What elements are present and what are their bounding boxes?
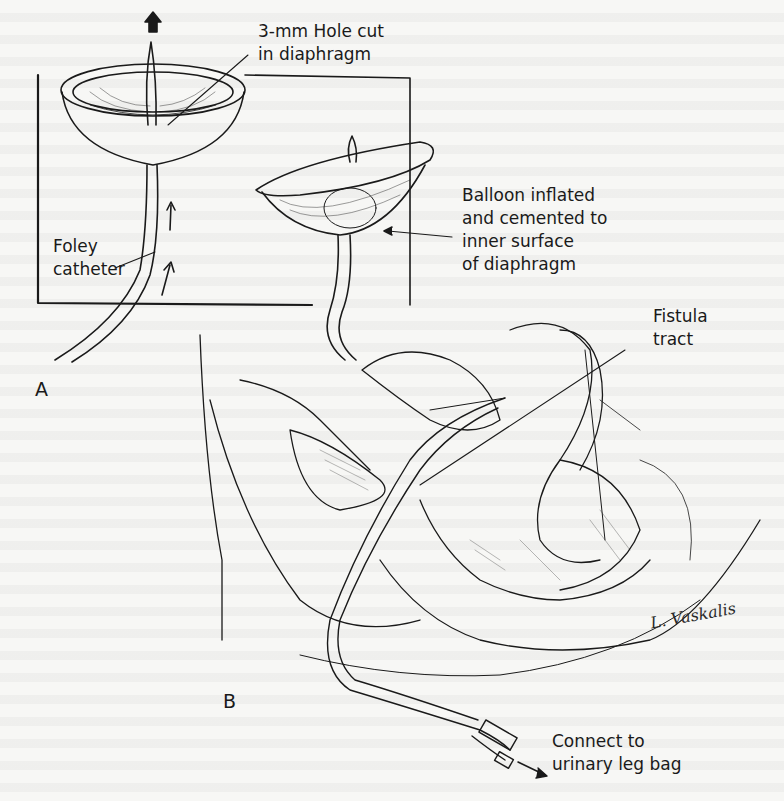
panel-a-frame-top: [245, 75, 410, 305]
panel-letter-a: A: [35, 378, 48, 400]
textbook-page: 3-mm Hole cut in diaphragm Foley cathete…: [0, 0, 784, 801]
label-hole-cut: 3-mm Hole cut in diaphragm: [258, 20, 384, 66]
label-balloon: Balloon inflated and cemented to inner s…: [462, 184, 607, 276]
catheter-path-b: [328, 398, 548, 778]
diaphragm-balloon: [256, 136, 452, 360]
label-connect-leg-bag: Connect to urinary leg bag: [552, 730, 682, 776]
medical-illustration: [0, 0, 784, 801]
panel-letter-b: B: [223, 690, 236, 712]
label-fistula-tract: Fistula tract: [653, 305, 708, 351]
diaphragm-a: [55, 12, 248, 362]
label-foley-catheter: Foley catheter: [53, 235, 125, 281]
